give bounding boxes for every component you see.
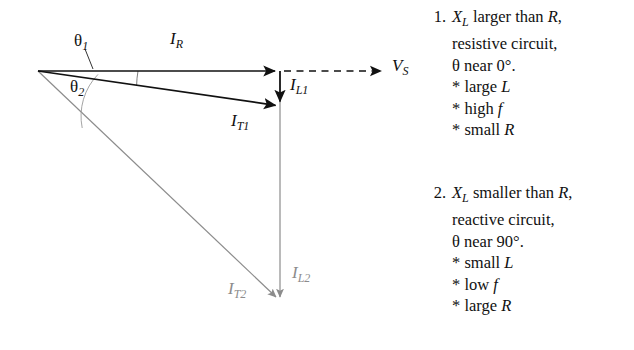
note-line-text: XL larger than R, <box>424 6 630 33</box>
math-variable: L <box>501 77 510 96</box>
note-line-text: XL smaller than R, <box>424 182 630 209</box>
note-line: * high f <box>424 98 630 120</box>
note-line: * small L <box>424 252 630 274</box>
note-text-run: , <box>568 183 572 202</box>
note-line: reactive circuit, <box>424 209 630 231</box>
note-line-text: * large R <box>424 295 630 317</box>
note-text-run: * small <box>452 120 504 139</box>
note-text-run: reactive circuit, <box>452 210 555 229</box>
math-subscript: L <box>462 15 469 29</box>
note-line: * large R <box>424 295 630 317</box>
math-subscript: L <box>462 191 469 205</box>
math-variable: f <box>498 99 503 118</box>
note-line: θ near 90°. <box>424 231 630 253</box>
note-line-text: θ near 0°. <box>424 55 630 77</box>
math-variable: R <box>504 120 514 139</box>
note-text-run: , <box>558 7 562 26</box>
note-line: * low f <box>424 274 630 296</box>
note-text-run: * large <box>452 77 501 96</box>
note-line-text: * small L <box>424 252 630 274</box>
note-number: 2. <box>424 182 446 204</box>
vector-label-IR: IR <box>170 30 183 50</box>
note-line: 1.XL larger than R, <box>424 6 630 33</box>
note-number: 1. <box>424 6 446 28</box>
math-variable: X <box>452 7 462 26</box>
vector-IT2-line <box>38 71 276 297</box>
note-text-run: * small <box>452 253 504 272</box>
figure-page: IR VS IL1 IT1 IL2 IT2 θ1 θ2 1.XL larger … <box>0 0 634 350</box>
math-variable: R <box>548 7 558 26</box>
math-variable: R <box>558 183 568 202</box>
angle-label-theta1: θ1 <box>74 32 88 52</box>
vector-label-IT2: IT2 <box>228 280 246 300</box>
note-text-run: smaller than <box>469 183 558 202</box>
vector-label-IT1: IT1 <box>231 112 249 132</box>
math-variable: L <box>504 253 513 272</box>
note-line-text: reactive circuit, <box>424 209 630 231</box>
note-line-text: * large L <box>424 76 630 98</box>
note-line-text: resistive circuit, <box>424 33 630 55</box>
note-text-run: θ near 90°. <box>452 232 524 251</box>
note-text-run: * low <box>452 275 493 294</box>
note-text-run: * large <box>452 296 501 315</box>
note-line: 2.XL smaller than R, <box>424 182 630 209</box>
math-variable: X <box>452 183 462 202</box>
note-line-text: * low f <box>424 274 630 296</box>
note-line-text: θ near 90°. <box>424 231 630 253</box>
note-line-text: * small R <box>424 119 630 141</box>
angle-label-theta2: θ2 <box>70 78 84 98</box>
note-block-2: 2.XL smaller than R,reactive circuit,θ n… <box>424 182 630 317</box>
note-text-run: * high <box>452 99 498 118</box>
note-line: * large L <box>424 76 630 98</box>
note-text-run: larger than <box>469 7 548 26</box>
math-variable: R <box>501 296 511 315</box>
vector-label-VS: VS <box>392 57 408 77</box>
vector-label-IL1: IL1 <box>290 76 308 96</box>
vector-label-IL2: IL2 <box>292 264 310 284</box>
angle-theta1-arc <box>137 71 138 85</box>
note-line: θ near 0°. <box>424 55 630 77</box>
note-line: resistive circuit, <box>424 33 630 55</box>
note-line: * small R <box>424 119 630 141</box>
math-variable: f <box>493 275 498 294</box>
note-line-text: * high f <box>424 98 630 120</box>
note-block-1: 1.XL larger than R,resistive circuit,θ n… <box>424 6 630 141</box>
note-text-run: resistive circuit, <box>452 34 557 53</box>
note-text-run: θ near 0°. <box>452 56 516 75</box>
